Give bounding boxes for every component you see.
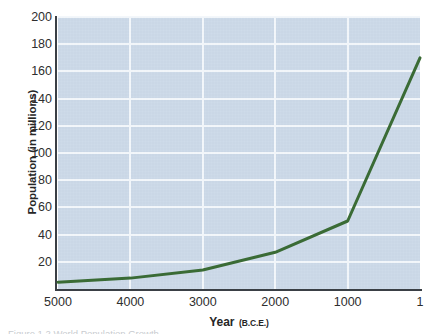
population-series-line	[58, 17, 420, 289]
y-tick-100: 100	[18, 147, 52, 159]
x-axis-title-unit: (B.C.E.)	[239, 318, 269, 328]
series-polyline	[58, 58, 420, 282]
x-tick-2000: 2000	[245, 295, 305, 309]
x-tick-5000: 5000	[28, 295, 88, 309]
y-tick-80: 80	[18, 174, 52, 186]
y-tick-160: 160	[18, 65, 52, 77]
x-tick-4000: 4000	[100, 295, 160, 309]
y-tick-20: 20	[18, 256, 52, 268]
x-axis-spine	[55, 289, 422, 291]
x-axis-tick-labels: 500040003000200010001	[0, 295, 434, 313]
x-tick-3000: 3000	[173, 295, 233, 309]
y-tick-180: 180	[18, 38, 52, 50]
x-axis-title-main: Year	[209, 315, 234, 329]
y-axis-tick-labels: 20406080100120140160180200	[14, 0, 52, 334]
y-tick-140: 140	[18, 93, 52, 105]
x-tick-1: 1	[390, 295, 434, 309]
x-tick-1000: 1000	[318, 295, 378, 309]
y-tick-120: 120	[18, 120, 52, 132]
y-tick-40: 40	[18, 229, 52, 241]
y-tick-200: 200	[18, 11, 52, 23]
figure-caption: Figure 1.2 World Population Growth	[8, 328, 308, 334]
population-growth-chart: Population (in millions) 204060801001201…	[0, 0, 434, 334]
y-tick-60: 60	[18, 201, 52, 213]
